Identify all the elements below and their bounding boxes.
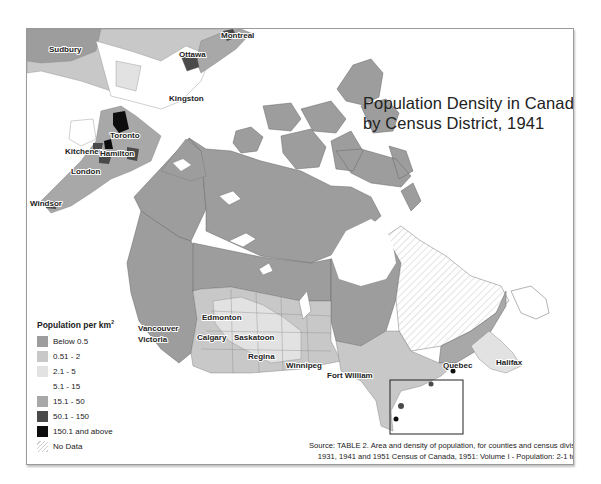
legend-label: 0.51 - 2 xyxy=(53,352,80,361)
legend-label: 2.1 - 5 xyxy=(53,367,76,376)
legend-item: Below 0.5 xyxy=(37,334,114,349)
city-label-fort-william: Fort William xyxy=(327,371,373,380)
source-line1: Source: TABLE 2. Area and density of pop… xyxy=(281,440,574,451)
city-label-toronto: Toronto xyxy=(110,131,140,140)
legend-label: 50.1 - 150 xyxy=(53,412,89,421)
legend-label: 15.1 - 50 xyxy=(53,397,85,406)
source-note: Source: TABLE 2. Area and density of pop… xyxy=(281,440,574,462)
legend-item: No Data xyxy=(37,439,114,454)
city-label-halifax: Halifax xyxy=(496,358,523,367)
city-label-quebec: Quebec xyxy=(443,361,473,370)
map-frame: Sudbury Ottawa Montreal Kingston Toronto… xyxy=(26,28,574,465)
legend-label: Below 0.5 xyxy=(53,337,88,346)
legend-items: Below 0.50.51 - 22.1 - 55.1 - 1515.1 - 5… xyxy=(37,334,114,454)
city-label-regina: Regina xyxy=(248,352,275,361)
legend-swatch xyxy=(37,366,48,377)
map-title-line2: by Census District, 1941 xyxy=(363,113,574,133)
legend-swatch xyxy=(37,351,48,362)
map-title: Population Density in Canada by Census D… xyxy=(363,93,574,133)
legend-item: 15.1 - 50 xyxy=(37,394,114,409)
city-label-edmonton: Edmonton xyxy=(202,313,242,322)
legend-item: 2.1 - 5 xyxy=(37,364,114,379)
legend-swatch xyxy=(37,411,48,422)
city-label-saskatoon: Saskatoon xyxy=(234,333,275,342)
legend-swatch xyxy=(37,381,48,392)
legend-item: 5.1 - 15 xyxy=(37,379,114,394)
city-label-victoria: Victoria xyxy=(138,335,168,344)
legend-swatch xyxy=(37,396,48,407)
legend: Population per km2 Below 0.50.51 - 22.1 … xyxy=(37,319,114,454)
city-label-vancouver: Vancouver xyxy=(138,324,178,333)
legend-label: 150.1 and above xyxy=(53,427,113,436)
legend-swatch xyxy=(37,336,48,347)
legend-swatch xyxy=(37,441,48,452)
legend-title: Population per km2 xyxy=(37,319,114,330)
city-label-calgary: Calgary xyxy=(197,333,227,342)
city-label-winnipeg: Winnipeg xyxy=(286,361,322,370)
region-newfoundland xyxy=(511,286,549,319)
map-title-line1: Population Density in Canada xyxy=(363,93,574,113)
legend-item: 50.1 - 150 xyxy=(37,409,114,424)
city-label-ottawa: Ottawa xyxy=(179,50,206,59)
city-label-sudbury: Sudbury xyxy=(49,45,82,54)
legend-swatch xyxy=(37,426,48,437)
city-label-kingston: Kingston xyxy=(169,94,204,103)
legend-label: 5.1 - 15 xyxy=(53,382,80,391)
legend-item: 0.51 - 2 xyxy=(37,349,114,364)
city-label-hamilton: Hamilton xyxy=(100,149,134,158)
legend-label: No Data xyxy=(53,442,82,451)
city-label-kitchener: Kitchener xyxy=(65,147,102,156)
legend-item: 150.1 and above xyxy=(37,424,114,439)
source-line2: 1931, 1941 and 1951 Census of Canada, 19… xyxy=(281,451,574,462)
city-label-montreal: Montreal xyxy=(221,31,254,40)
city-label-windsor: Windsor xyxy=(30,199,62,208)
city-label-london: London xyxy=(71,167,100,176)
